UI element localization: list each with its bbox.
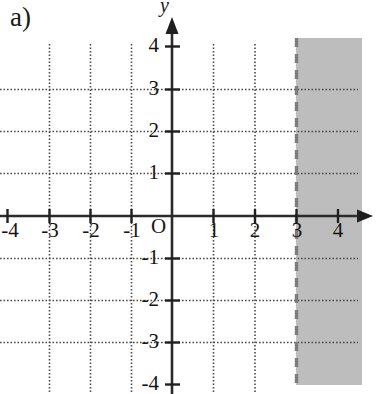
- origin-label: O: [151, 214, 166, 239]
- x-tick-label-4: 4: [324, 218, 352, 243]
- panel-label: a): [10, 2, 31, 33]
- x-tick-label-1: 1: [200, 218, 228, 243]
- y-tick-label-2: 2: [131, 118, 159, 143]
- y-tick-label--2: -2: [124, 287, 159, 312]
- y-tick-label-1: 1: [131, 160, 159, 185]
- x-tick-label-3: 3: [283, 218, 311, 243]
- coordinate-plane-figure: [0, 0, 376, 394]
- x-tick-label--2: -2: [77, 218, 105, 243]
- x-tick-label--3: -3: [36, 218, 64, 243]
- y-axis-label: y: [160, 0, 169, 17]
- y-tick-label-4: 4: [131, 33, 159, 58]
- x-tick-label-2: 2: [241, 218, 269, 243]
- y-tick-label--3: -3: [124, 329, 159, 354]
- x-tick-label--4: -4: [0, 218, 24, 243]
- y-tick-label--1: -1: [124, 245, 159, 270]
- x-tick-label--1: -1: [118, 218, 146, 243]
- y-tick-label-3: 3: [131, 76, 159, 101]
- y-tick-label--4: -4: [124, 371, 159, 394]
